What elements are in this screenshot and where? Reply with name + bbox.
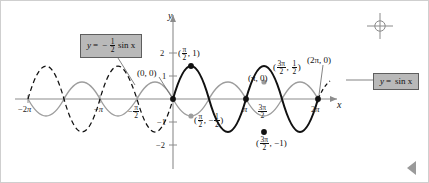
y-tick-label-minus-2: −2 — [156, 141, 165, 150]
y-axis-label: y — [168, 11, 172, 21]
point-label-neghalf-min: (π2, −12) — [194, 113, 223, 129]
y-tick-label-2: 2 — [160, 49, 164, 58]
neghalf-max-fraction-y: 12 — [292, 60, 298, 76]
x-tick-label-2pi: 2π — [311, 105, 320, 114]
fraction-denominator: 2 — [110, 45, 116, 54]
callout-sin-equation: y=sin x — [380, 77, 412, 86]
callout-equals: = — [91, 40, 100, 50]
callout-sin: y=sin x — [373, 73, 419, 90]
figure-container: y=−12sin x y=sin x y x −2π −π −π2 π 3π2 … — [0, 0, 429, 183]
callout-minus-sign: − — [100, 40, 109, 50]
y-tick-label-1: 1 — [162, 72, 166, 81]
point-sin-max — [188, 63, 194, 69]
leader-neg-half-sin — [118, 58, 135, 85]
sine-curves-plot — [1, 1, 429, 183]
sin-min-fraction-x: 3π2 — [260, 136, 270, 152]
fraction-numerator: 1 — [110, 38, 116, 46]
crosshair-registration-mark — [367, 13, 393, 39]
x-tick-label-minus-2pi: −2π — [18, 105, 31, 114]
point-label-origin: (0, 0) — [137, 69, 157, 78]
callout-neg-half-sin: y=−12sin x — [80, 34, 142, 58]
callout-sin-function-name: sin x — [393, 76, 412, 86]
x-axis-label: x — [337, 100, 341, 110]
x-tick-label-3pi-over-2: 3π2 — [257, 104, 268, 120]
point-label-sin-2pi: (2π, 0) — [307, 56, 331, 65]
x-tick-label-pi: π — [243, 105, 247, 114]
point-label-sin-min: (3π2, −1) — [256, 136, 287, 152]
neghalf-max-fraction-x: 3π2 — [277, 60, 287, 76]
y-tick-label-minus-1: −1 — [157, 118, 166, 127]
point-label-sin-pi: (π, 0) — [248, 74, 268, 83]
neghalf-min-fraction-y: 12 — [214, 113, 220, 129]
callout-function-name: sin x — [116, 40, 135, 50]
callout-neg-half-sin-equation: y=−12sin x — [87, 38, 135, 54]
point-neghalf-min — [188, 113, 193, 118]
sin-max-fraction: π2 — [182, 46, 188, 62]
previous-page-triangle[interactable] — [407, 161, 416, 175]
point-label-sin-max: (π2, 1) — [178, 46, 200, 62]
point-label-neghalf-max: (3π2, 12) — [273, 60, 301, 76]
point-origin — [170, 96, 176, 102]
point-sin-pi — [243, 96, 249, 102]
neghalf-min-fraction-x: π2 — [198, 113, 204, 129]
point-sin-2pi — [315, 96, 321, 102]
callout-fraction-one-half: 12 — [110, 38, 116, 54]
x-tick-label-minus-pi: −π — [94, 105, 103, 114]
callout-sin-equals: = — [384, 76, 393, 86]
x-tick-fraction-3pi-over-2: 3π2 — [258, 104, 268, 120]
x-tick-label-minus-pi-over-2: −π2 — [128, 104, 140, 120]
x-tick-fraction-pi-over-2: π2 — [133, 104, 139, 120]
